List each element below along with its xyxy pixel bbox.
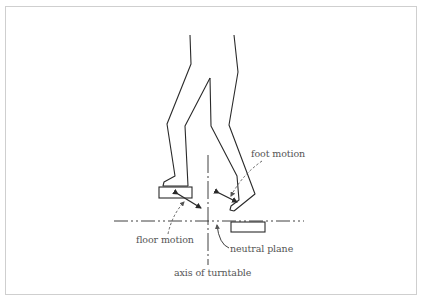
right-leg [210,35,255,211]
foot-motion-leader [231,161,262,196]
floor-motion-label: floor motion [136,234,194,245]
axis-of-turntable-label: axis of turntable [174,267,251,278]
floor-motion-leader [168,202,184,234]
foot-motion-arrow [219,193,237,202]
left-leg [163,35,210,186]
neutral-plane-leader [217,225,229,248]
right-floor-block [231,222,265,232]
neutral-plane-label: neutral plane [230,243,293,254]
turntable-diagram [0,0,422,302]
left-floor-block [159,187,192,198]
foot-motion-label: foot motion [251,148,305,159]
